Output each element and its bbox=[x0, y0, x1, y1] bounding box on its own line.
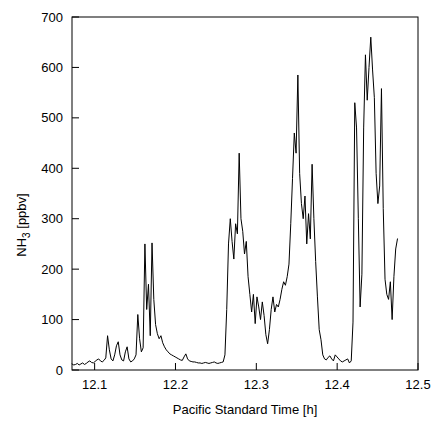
y-axis-tick-labels: 0100200300400500600700 bbox=[41, 10, 63, 378]
y-tick-label: 100 bbox=[41, 312, 63, 327]
x-tick-label: 12.1 bbox=[82, 377, 107, 392]
x-tick-label: 12.3 bbox=[244, 377, 269, 392]
chart-canvas: 0100200300400500600700 12.112.212.312.41… bbox=[0, 0, 445, 436]
x-axis-tick-labels: 12.112.212.312.412.5 bbox=[82, 377, 431, 392]
y-tick-label: 700 bbox=[41, 10, 63, 25]
y-tick-label: 600 bbox=[41, 60, 63, 75]
y-tick-label: 500 bbox=[41, 110, 63, 125]
y-tick-label: 200 bbox=[41, 262, 63, 277]
y-axis-ticks bbox=[72, 17, 79, 370]
y-axis-title-base: NH bbox=[14, 238, 29, 257]
x-tick-label: 12.4 bbox=[325, 377, 350, 392]
data-series-group bbox=[72, 37, 397, 365]
y-tick-label: 0 bbox=[56, 363, 63, 378]
x-axis-ticks bbox=[95, 363, 418, 370]
y-tick-label: 300 bbox=[41, 211, 63, 226]
y-axis-title: NH3 [ppbv] bbox=[14, 193, 32, 256]
y-tick-label: 400 bbox=[41, 161, 63, 176]
nh3-time-series-figure: 0100200300400500600700 12.112.212.312.41… bbox=[0, 0, 445, 436]
series-line bbox=[72, 37, 397, 365]
x-axis-title: Pacific Standard Time [h] bbox=[173, 402, 318, 417]
y-axis-title-unit: [ppbv] bbox=[14, 193, 29, 232]
x-tick-label: 12.5 bbox=[405, 377, 430, 392]
x-tick-label: 12.2 bbox=[163, 377, 188, 392]
svg-text:NH3 [ppbv]: NH3 [ppbv] bbox=[14, 193, 32, 256]
